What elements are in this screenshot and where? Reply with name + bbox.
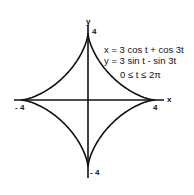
x-tick-4: 4 [153, 104, 157, 112]
equation-y: y = 3 sin t - sin 3t [104, 56, 176, 66]
x-axis-label: x [167, 96, 171, 104]
y-tick-neg4: - 4 [90, 169, 99, 177]
plot-canvas [0, 0, 194, 195]
equation-x: x = 3 cos t + cos 3t [104, 45, 184, 55]
parametric-curve-figure: y 4 x 4 - 4 - 4 x = 3 cos t + cos 3t y =… [0, 0, 194, 195]
parameter-range: 0 ≤ t ≤ 2π [120, 70, 161, 80]
y-tick-4: 4 [92, 28, 96, 36]
x-tick-neg4: - 4 [15, 104, 24, 112]
y-axis-label: y [86, 18, 90, 26]
